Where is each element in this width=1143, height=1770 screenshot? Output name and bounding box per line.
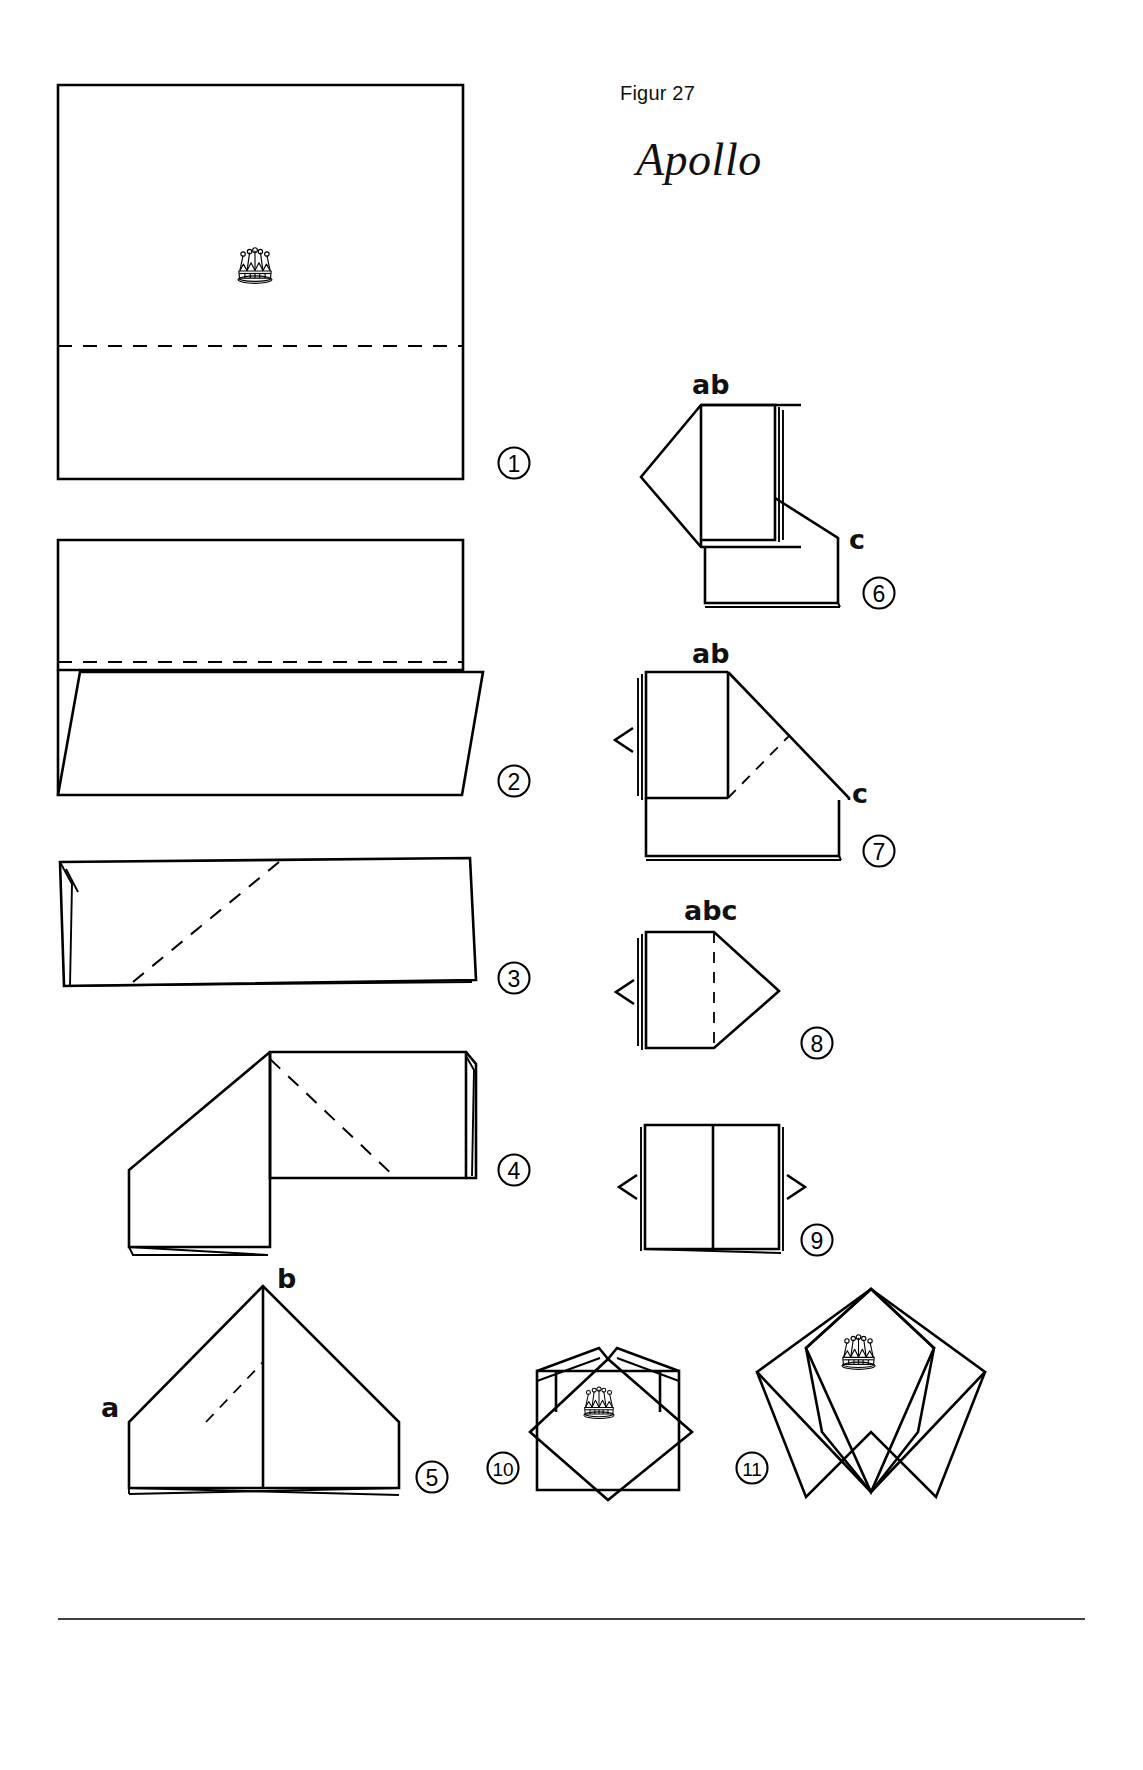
dashed-fold-line (728, 735, 790, 798)
step-number-10: 10 (488, 1453, 519, 1484)
svg-text:8: 8 (811, 1031, 824, 1057)
svg-text:3: 3 (508, 966, 521, 992)
figure-sheet: Figur 27 Apollo b a ab c ab c abc (0, 0, 1143, 1770)
step-number-1: 1 (499, 448, 530, 479)
step-number-9: 9 (802, 1225, 833, 1256)
step-number-6: 6 (864, 578, 895, 609)
step-number-11: 11 (737, 1453, 768, 1484)
step-number-3: 3 (499, 963, 530, 994)
svg-text:10: 10 (492, 1459, 513, 1480)
step-1-diagram: 1 (58, 85, 530, 479)
step-8-diagram: 8 (616, 932, 833, 1059)
step-9-diagram: 9 (619, 1125, 833, 1256)
svg-text:1: 1 (508, 451, 521, 477)
tuck-arrow-icon (619, 1175, 637, 1199)
svg-text:5: 5 (426, 1465, 439, 1491)
dashed-fold-line (206, 1362, 263, 1422)
dashed-fold-line (133, 862, 279, 982)
crown-icon (842, 1335, 875, 1370)
step-2-diagram: 2 (58, 540, 530, 797)
step-11-diagram: 11 (737, 1289, 986, 1497)
crown-icon (238, 248, 272, 284)
dashed-fold-line (270, 1059, 396, 1178)
step-number-2: 2 (499, 766, 530, 797)
svg-text:7: 7 (873, 839, 886, 865)
svg-text:9: 9 (811, 1228, 824, 1254)
step-5-diagram: 5 (129, 1286, 448, 1495)
svg-text:2: 2 (508, 769, 521, 795)
crown-icon (584, 1387, 614, 1419)
step-10-diagram: 10 (488, 1348, 693, 1500)
svg-text:6: 6 (873, 581, 886, 607)
svg-text:4: 4 (508, 1158, 521, 1184)
tuck-arrow-icon (787, 1175, 805, 1199)
step-number-4: 4 (499, 1155, 530, 1186)
svg-text:11: 11 (742, 1459, 762, 1480)
step-3-diagram: 3 (60, 858, 530, 994)
step-number-7: 7 (864, 836, 895, 867)
step-7-diagram: 7 (615, 672, 895, 867)
step-number-5: 5 (417, 1462, 448, 1493)
step-6-diagram: 6 (641, 405, 895, 609)
step-4-diagram: 4 (129, 1052, 530, 1255)
step-number-8: 8 (802, 1028, 833, 1059)
